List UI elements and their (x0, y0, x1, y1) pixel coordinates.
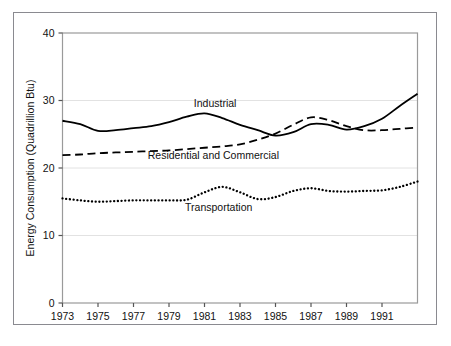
gridlines (63, 101, 418, 236)
data-series-lines (63, 94, 418, 202)
x-tick-label-1981: 1981 (193, 310, 217, 322)
x-tick-label-1983: 1983 (228, 310, 252, 322)
x-axis-tick-labels: 1973197519771979198119831985198719891991 (51, 310, 394, 322)
x-tick-label-1991: 1991 (370, 310, 394, 322)
x-tick-label-1989: 1989 (335, 310, 359, 322)
series-label-residential-and-commercial: Residential and Commercial (148, 149, 279, 161)
series-label-transportation: Transportation (185, 201, 252, 213)
chart-figure: 010203040 197319751977197919811983198519… (0, 0, 451, 346)
y-tick-label-10: 10 (43, 229, 55, 241)
y-axis-tick-labels: 010203040 (43, 27, 55, 309)
y-axis-title: Energy Consumption (Quadrillion Btu) (24, 80, 36, 257)
energy-consumption-line-chart: 010203040 197319751977197919811983198519… (0, 0, 451, 346)
y-tick-label-20: 20 (43, 162, 55, 174)
y-tick-label-40: 40 (43, 27, 55, 39)
x-tick-label-1977: 1977 (122, 310, 146, 322)
series-label-industrial: Industrial (194, 97, 237, 109)
series-line-transportation (63, 182, 418, 202)
x-tick-label-1985: 1985 (264, 310, 288, 322)
x-tick-label-1979: 1979 (157, 310, 181, 322)
y-tick-label-0: 0 (49, 297, 55, 309)
y-tick-label-30: 30 (43, 94, 55, 106)
x-tick-label-1973: 1973 (51, 310, 75, 322)
x-tick-label-1987: 1987 (299, 310, 323, 322)
x-tick-label-1975: 1975 (86, 310, 110, 322)
series-inline-labels: IndustrialResidential and CommercialTran… (148, 97, 279, 214)
